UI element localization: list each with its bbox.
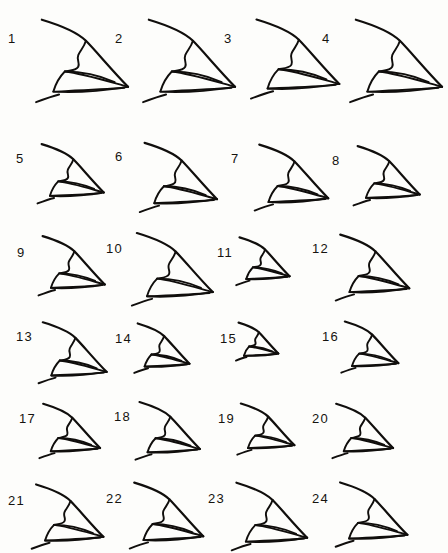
- wing-outline-drawing: [235, 234, 293, 287]
- wing-outline-drawing: [331, 400, 397, 461]
- outline-stroke: [36, 95, 59, 103]
- wing-outline-svg: [38, 400, 104, 461]
- wing-outline-drawing: [141, 14, 241, 106]
- wing-outline-svg: [37, 318, 111, 386]
- outline-stroke: [256, 417, 295, 446]
- outline-stroke: [154, 200, 214, 203]
- wing-outline-svg: [249, 14, 345, 102]
- outline-stroke: [136, 233, 212, 292]
- wing-outline-drawing: [340, 318, 402, 375]
- specimen-number-label: 3: [224, 32, 232, 45]
- outline-stroke: [172, 41, 235, 87]
- wing-outline-svg: [133, 320, 193, 375]
- outline-stroke: [354, 200, 371, 206]
- wing-outline-drawing: [30, 480, 108, 552]
- wing-outline-svg: [236, 400, 298, 457]
- wing-outline-drawing: [37, 318, 111, 386]
- outline-stroke: [144, 143, 216, 199]
- outline-stroke: [50, 193, 101, 196]
- outline-stroke: [255, 204, 273, 210]
- outline-stroke: [143, 537, 200, 540]
- wing-outline-drawing: [230, 478, 312, 553]
- specimen-number-label: 18: [114, 410, 131, 423]
- outline-stroke: [238, 450, 252, 455]
- outline-stroke: [140, 206, 159, 212]
- outline-stroke: [36, 484, 103, 536]
- outline-stroke: [143, 95, 166, 103]
- outline-stroke: [134, 368, 148, 373]
- outline-stroke: [39, 290, 56, 296]
- outline-stroke: [43, 322, 107, 372]
- wing-outline-svg: [253, 140, 333, 214]
- wing-outline-drawing: [253, 140, 333, 214]
- outline-stroke: [156, 417, 200, 449]
- outline-stroke: [344, 449, 391, 452]
- outline-stroke: [45, 538, 100, 541]
- wing-outline-drawing: [138, 138, 222, 215]
- outline-stroke: [349, 289, 406, 292]
- specimen-number-label: 22: [106, 492, 123, 505]
- specimen-number-label: 10: [106, 242, 123, 255]
- outline-stroke: [157, 252, 213, 292]
- specimen-number-label: 5: [16, 152, 24, 165]
- outline-stroke: [352, 364, 396, 366]
- outline-stroke: [51, 449, 98, 452]
- outline-stroke: [268, 199, 325, 202]
- wing-outline-svg: [128, 478, 208, 552]
- specimen-number-label: 6: [115, 150, 123, 163]
- wing-outline-svg: [134, 398, 204, 462]
- outline-stroke: [252, 250, 289, 277]
- outline-stroke: [342, 368, 356, 373]
- wing-outline-svg: [235, 234, 293, 287]
- wing-outline-svg: [334, 478, 412, 550]
- outline-stroke: [340, 482, 407, 534]
- outline-stroke: [134, 483, 203, 537]
- outline-stroke: [333, 453, 348, 458]
- outline-stroke: [358, 499, 407, 535]
- wing-outline-drawing: [128, 478, 208, 552]
- wing-outline-drawing: [348, 14, 448, 106]
- outline-stroke: [164, 161, 217, 200]
- outline-stroke: [232, 544, 251, 550]
- outline-stroke: [360, 335, 399, 364]
- outline-stroke: [51, 285, 102, 288]
- specimen-number-label: 2: [115, 32, 123, 45]
- wing-outline-drawing: [235, 320, 281, 362]
- wing-outline-drawing: [34, 14, 134, 106]
- specimen-number-label: 20: [312, 412, 329, 425]
- outline-stroke: [135, 454, 151, 459]
- wing-outline-svg: [235, 320, 281, 362]
- wing-outline-drawing: [352, 142, 424, 208]
- wing-outline-svg: [30, 480, 108, 552]
- outline-stroke: [352, 418, 394, 448]
- wing-outline-drawing: [249, 14, 345, 102]
- outline-stroke: [379, 41, 442, 87]
- wing-outline-svg: [331, 400, 397, 461]
- outline-stroke: [153, 499, 204, 536]
- specimen-number-label: 1: [8, 32, 16, 45]
- wing-outline-drawing: [37, 232, 109, 298]
- wing-outline-drawing: [133, 320, 193, 375]
- outline-stroke: [65, 41, 128, 87]
- wing-outline-drawing: [36, 140, 108, 206]
- wing-outline-svg: [340, 318, 402, 375]
- wing-outline-drawing: [334, 478, 412, 550]
- outline-stroke: [246, 277, 287, 279]
- outline-stroke: [256, 500, 308, 538]
- wing-outline-svg: [334, 230, 414, 304]
- outline-stroke: [31, 543, 49, 549]
- specimen-number-label: 16: [322, 330, 339, 343]
- outline-stroke: [152, 336, 190, 364]
- specimen-number-label: 12: [312, 242, 329, 255]
- outline-stroke: [246, 539, 304, 542]
- outline-stroke: [248, 446, 292, 448]
- outline-stroke: [251, 91, 273, 98]
- outline-stroke: [60, 251, 106, 284]
- outline-stroke: [145, 364, 188, 366]
- outline-stroke: [139, 402, 199, 449]
- wing-outline-drawing: [334, 230, 414, 304]
- outline-stroke: [279, 40, 340, 84]
- outline-stroke: [42, 20, 128, 87]
- wing-outline-drawing: [236, 400, 298, 457]
- specimen-number-label: 23: [208, 492, 225, 505]
